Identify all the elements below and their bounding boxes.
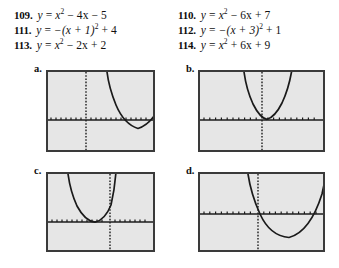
graph-panel-a [46,70,155,152]
graph-label-a: a. [34,63,42,74]
graph-svg-c [48,174,153,250]
exercise-equation: y = x2 − 2x + 2 [37,39,106,51]
exercise-110: 110.y = x2 − 6x + 7 [178,5,270,21]
graph-label-d: d. [186,165,194,176]
graph-label-b: b. [186,63,194,74]
graph-svg-b [200,72,323,150]
exercise-number: 113. [14,39,32,51]
parabola-curve-d [248,174,323,238]
axes-c [48,174,153,250]
equation-list: 109.y = x2 − 4x − 5 110.y = x2 − 6x + 7 … [0,0,339,56]
axes-b [200,72,323,150]
graph-label-c: c. [34,165,41,176]
exercise-113: 113.y = x2 − 2x + 2 [14,35,106,51]
graph-panel-b [198,70,325,152]
graph-svg-d [200,174,323,250]
exercise-111: 111.y = −(x + 1)2 + 4 [14,20,117,36]
graph-panel-d [198,172,325,252]
exercise-114: 114.y = x2 + 6x + 9 [178,35,270,51]
exercise-109: 109.y = x2 − 4x − 5 [14,5,107,21]
exercise-112: 112.y = −(x + 3)2 + 1 [178,20,281,36]
axes-a [48,72,153,150]
graph-svg-a [48,72,153,150]
exercise-page: 109.y = x2 − 4x − 5 110.y = x2 − 6x + 7 … [0,0,339,268]
graph-panel-c [46,172,155,252]
exercise-equation: y = x2 + 6x + 9 [201,39,270,51]
parabola-curve-c [68,174,116,222]
parabola-curve-b [244,72,292,119]
exercise-number: 114. [178,39,196,51]
